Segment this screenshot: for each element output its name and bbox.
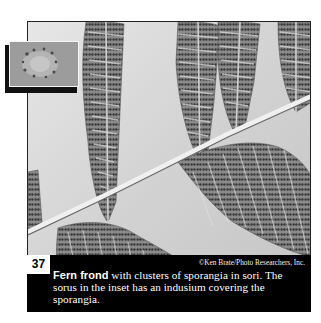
caption-text: Fern frond with clusters of sporangia in… [53, 269, 309, 306]
photo-credit: ©Ken Brate/Photo Researchers, Inc. [199, 258, 305, 267]
sorus-inset-photo [9, 41, 79, 87]
caption-bold-term: Fern frond [53, 269, 109, 281]
figure-caption-box: 37 ©Ken Brate/Photo Researchers, Inc. Fe… [27, 255, 311, 312]
figure-number: 37 [27, 255, 50, 274]
